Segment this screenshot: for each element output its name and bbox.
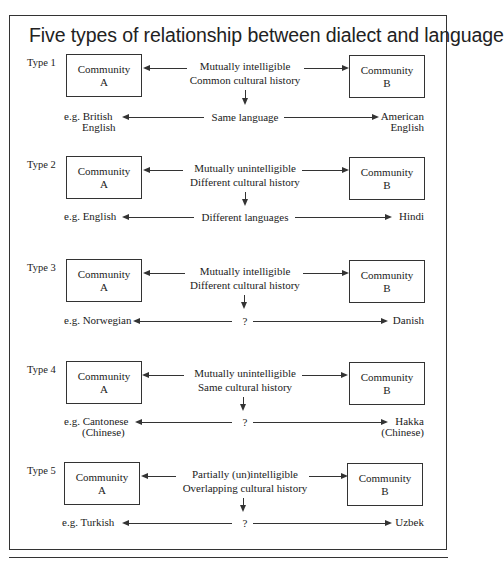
connector-line	[253, 321, 381, 322]
arrow-right-icon	[342, 65, 349, 71]
community-a-letter: A	[67, 383, 141, 396]
relation-text: Mutually unintelligibleDifferent cultura…	[150, 161, 340, 189]
type-3-section: Type 3 CommunityA Mutually intelligibleD…	[0, 259, 459, 359]
community-a-letter: A	[67, 178, 141, 191]
community-a-label: Community	[67, 370, 141, 383]
connector-line	[302, 170, 342, 171]
relation-text: Partially (un)intelligibleOverlapping cu…	[150, 467, 340, 495]
example-right: AmericanEnglish	[381, 111, 424, 133]
relation-text: Mutually unintelligibleSame cultural his…	[150, 366, 340, 394]
community-b-letter: B	[350, 179, 424, 192]
arrow-down-icon	[242, 98, 248, 105]
example-right: Hakka(Chinese)	[381, 416, 424, 438]
community-b-label: Community	[350, 269, 424, 282]
community-a-letter: A	[67, 76, 141, 89]
type-label: Type 2	[27, 159, 56, 170]
relation-history: Different cultural history	[150, 175, 340, 189]
arrow-left-icon	[142, 372, 149, 378]
arrow-right-icon	[385, 520, 392, 526]
arrow-right-icon	[381, 318, 388, 324]
community-a-box: CommunityA	[66, 361, 142, 404]
community-b-label: Community	[350, 371, 424, 384]
type-1-section: Type 1 CommunityA Mutually intelligibleC…	[0, 54, 459, 154]
example-left: e.g. Cantonese(Chinese)	[64, 416, 128, 438]
connector-line	[295, 217, 385, 218]
arrow-down-icon	[240, 404, 246, 411]
relation-history: Overlapping cultural history	[150, 481, 340, 495]
example-left: e.g. Norwegian	[64, 315, 132, 326]
connector-line	[284, 117, 372, 118]
relation-text: Mutually intelligibleCommon cultural his…	[150, 59, 340, 87]
community-a-box: CommunityA	[66, 54, 142, 97]
type-5-section: Type 5 CommunityA Partially (un)intellig…	[0, 462, 459, 562]
community-b-box: CommunityB	[349, 55, 425, 98]
arrow-right-icon	[342, 167, 349, 173]
community-b-label: Community	[350, 64, 424, 77]
arrow-down-icon	[240, 505, 246, 512]
community-a-label: Community	[67, 165, 141, 178]
relation-intelligibility: Mutually intelligible	[150, 59, 340, 73]
community-b-letter: B	[348, 485, 422, 498]
type-4-section: Type 4 CommunityA Mutually unintelligibl…	[0, 361, 459, 461]
relation-history: Common cultural history	[150, 73, 340, 87]
arrow-left-icon	[143, 65, 150, 71]
example-right: Hindi	[399, 211, 424, 222]
arrow-left-icon	[143, 270, 150, 276]
relation-intelligibility: Mutually unintelligible	[150, 366, 340, 380]
arrow-right-icon	[342, 270, 349, 276]
community-b-box: CommunityB	[349, 260, 425, 303]
type-label: Type 4	[27, 364, 56, 375]
community-a-letter: A	[65, 484, 139, 497]
community-b-box: CommunityB	[347, 463, 423, 506]
arrow-left-icon	[122, 520, 129, 526]
relation-history: Different cultural history	[150, 278, 340, 292]
arrow-left-icon	[133, 318, 140, 324]
community-b-label: Community	[348, 472, 422, 485]
example-left: e.g. BritishEnglish	[64, 111, 116, 133]
example-left: e.g. English	[64, 211, 116, 222]
arrow-left-icon	[122, 114, 129, 120]
relation-intelligibility: Partially (un)intelligible	[150, 467, 340, 481]
example-left: e.g. Turkish	[62, 517, 114, 528]
community-b-letter: B	[350, 384, 424, 397]
type-2-section: Type 2 CommunityA Mutually unintelligibl…	[0, 156, 459, 256]
relation-text: Mutually intelligibleDifferent cultural …	[150, 264, 340, 292]
diagram-title: Five types of relationship between diale…	[29, 24, 504, 47]
type-label: Type 1	[27, 57, 56, 68]
community-a-box: CommunityA	[66, 156, 142, 199]
relation-history: Same cultural history	[150, 380, 340, 394]
relation-intelligibility: Mutually unintelligible	[150, 161, 340, 175]
community-a-box: CommunityA	[64, 462, 140, 505]
arrow-right-icon	[341, 372, 348, 378]
arrow-left-icon	[135, 419, 142, 425]
community-a-label: Community	[67, 268, 141, 281]
example-right: Uzbek	[395, 517, 424, 528]
arrow-left-icon	[141, 473, 148, 479]
arrow-right-icon	[372, 114, 379, 120]
connector-line	[309, 476, 341, 477]
community-a-box: CommunityA	[66, 259, 142, 302]
arrow-right-icon	[385, 214, 392, 220]
connector-line	[303, 273, 342, 274]
community-b-box: CommunityB	[349, 157, 425, 200]
arrow-left-icon	[143, 167, 150, 173]
community-b-letter: B	[350, 77, 424, 90]
example-right: Danish	[393, 315, 424, 326]
community-b-label: Community	[350, 166, 424, 179]
community-b-box: CommunityB	[349, 362, 425, 405]
community-a-label: Community	[65, 471, 139, 484]
connector-line	[302, 375, 341, 376]
arrow-left-icon	[122, 214, 129, 220]
type-label: Type 3	[27, 262, 56, 273]
connector-line	[253, 422, 381, 423]
relation-intelligibility: Mutually intelligible	[150, 264, 340, 278]
community-a-label: Community	[67, 63, 141, 76]
connector-line	[304, 68, 342, 69]
community-b-letter: B	[350, 282, 424, 295]
arrow-down-icon	[242, 199, 248, 206]
arrow-down-icon	[241, 302, 247, 309]
connector-line	[253, 523, 385, 524]
community-a-letter: A	[67, 281, 141, 294]
type-label: Type 5	[27, 465, 56, 476]
